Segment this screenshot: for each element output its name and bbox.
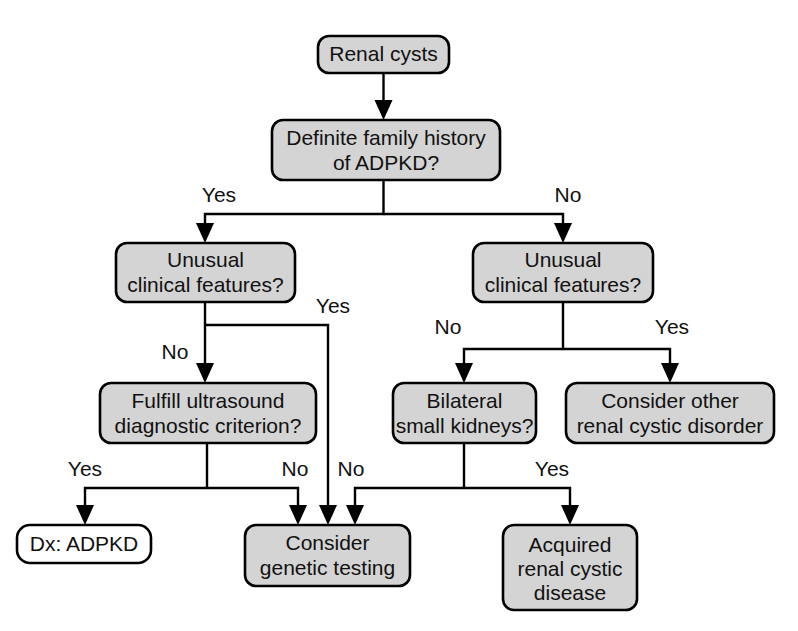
- edge-unusual-right-no-to-bilateral: No: [435, 315, 563, 383]
- arrowhead-icon: [346, 505, 364, 525]
- arrowhead-icon: [661, 363, 679, 383]
- edge-label-yes: Yes: [655, 315, 689, 338]
- arrowhead-icon: [196, 223, 214, 243]
- node-label-line-1: Definite family history: [286, 126, 486, 149]
- node-definite-family-history[interactable]: Definite family history of ADPKD?: [272, 120, 500, 180]
- edge-line: [85, 488, 207, 510]
- flowchart-canvas: Yes No No Yes No: [0, 0, 798, 631]
- edge-line: [563, 349, 670, 368]
- edge-line: [355, 488, 464, 510]
- node-label-line-1: Consider: [285, 531, 369, 554]
- arrowhead-icon: [289, 505, 307, 525]
- flowchart-diagram: Yes No No Yes No: [0, 0, 798, 631]
- node-renal-cysts[interactable]: Renal cysts: [318, 36, 449, 73]
- arrowhead-icon: [375, 100, 393, 120]
- node-acquired-renal-cystic-disease[interactable]: Acquired renal cystic disease: [503, 525, 637, 610]
- edge-label-no: No: [555, 183, 582, 206]
- node-label-line-1: Unusual: [524, 248, 601, 271]
- edge-ultrasound-yes-to-dx-adpkd: Yes: [68, 457, 207, 525]
- node-label-line-2: renal cystic disorder: [577, 414, 764, 437]
- edge-line: [207, 488, 298, 510]
- node-label-line-1: Consider other: [601, 389, 739, 412]
- edge-label-yes: Yes: [316, 294, 350, 317]
- node-label-line-1: Acquired: [529, 533, 612, 556]
- node-consider-other-renal-cystic-disorder[interactable]: Consider other renal cystic disorder: [566, 383, 774, 443]
- node-label-line-2: of ADPKD?: [333, 151, 439, 174]
- edge-family-history-to-unusual-right: No: [384, 183, 582, 243]
- edge-line: [464, 488, 570, 510]
- edge-unusual-left-no-to-ultrasound: No: [162, 325, 214, 383]
- node-bilateral-small-kidneys[interactable]: Bilateral small kidneys?: [393, 383, 536, 443]
- node-label-line-2: clinical features?: [127, 273, 283, 296]
- edge-renal-cysts-to-family-history: [375, 73, 393, 120]
- node-fulfill-ultrasound-criterion[interactable]: Fulfill ultrasound diagnostic criterion?: [100, 383, 316, 443]
- node-consider-genetic-testing[interactable]: Consider genetic testing: [245, 525, 410, 586]
- edge-label-no: No: [162, 340, 189, 363]
- edge-family-history-to-unusual-left: Yes: [196, 180, 384, 243]
- node-label-line-2: renal cystic: [517, 557, 622, 580]
- node-unusual-clinical-features-left[interactable]: Unusual clinical features?: [116, 243, 295, 302]
- node-label-line-3: disease: [534, 581, 606, 604]
- edge-label-no: No: [338, 457, 365, 480]
- node-dx-adpkd[interactable]: Dx: ADPKD: [17, 525, 151, 563]
- arrowhead-icon: [76, 505, 94, 525]
- node-unusual-clinical-features-right[interactable]: Unusual clinical features?: [473, 243, 653, 302]
- edge-label-yes: Yes: [68, 457, 102, 480]
- node-label-line-2: clinical features?: [485, 273, 641, 296]
- edge-unusual-right-yes-to-consider-other: Yes: [563, 315, 689, 383]
- edge-line: [384, 214, 564, 228]
- node-label-line-2: diagnostic criterion?: [115, 414, 302, 437]
- node-label-line-1: Bilateral: [427, 389, 503, 412]
- edge-label-yes: Yes: [202, 183, 236, 206]
- arrowhead-icon: [561, 505, 579, 525]
- edge-ultrasound-no-to-genetic-testing: No: [207, 457, 308, 525]
- edge-label-no: No: [282, 457, 309, 480]
- node-label-line-1: Fulfill ultrasound: [132, 389, 285, 412]
- arrowhead-icon: [196, 363, 214, 383]
- edge-label-yes: Yes: [535, 457, 569, 480]
- node-label-line-2: small kidneys?: [396, 414, 534, 437]
- node-label-line-1: Dx: ADPKD: [30, 532, 139, 555]
- edge-bilateral-yes-to-acquired: Yes: [464, 457, 579, 525]
- node-label-line-2: genetic testing: [260, 556, 395, 579]
- node-label-line-1: Unusual: [167, 248, 244, 271]
- edge-bilateral-no-to-genetic-testing: No: [338, 457, 464, 525]
- node-label-line-1: Renal cysts: [329, 42, 438, 65]
- arrowhead-icon: [554, 223, 572, 243]
- edge-line: [464, 349, 563, 368]
- edge-label-no: No: [435, 315, 462, 338]
- arrowhead-icon: [319, 505, 337, 525]
- arrowhead-icon: [455, 363, 473, 383]
